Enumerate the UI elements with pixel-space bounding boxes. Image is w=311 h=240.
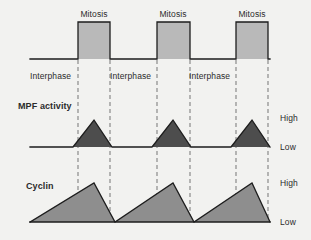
mitosis-label-1: Mitosis bbox=[80, 9, 107, 19]
mpf-peak-2 bbox=[152, 120, 191, 147]
mpf-activity-panel bbox=[30, 120, 270, 147]
mitosis-pulse-3 bbox=[236, 22, 268, 59]
interphase-label-1: Interphase bbox=[30, 71, 71, 81]
mitosis-pulse-2 bbox=[157, 22, 190, 59]
mitosis-label-3: Mitosis bbox=[238, 9, 265, 19]
cyclin-label: Cyclin bbox=[26, 181, 54, 191]
mitosis-pulse-1 bbox=[78, 22, 110, 59]
mpf-peak-1 bbox=[73, 120, 112, 147]
cell-cycle-diagram: Mitosis Mitosis Mitosis Interphase Inter… bbox=[0, 0, 311, 240]
mitosis-panel bbox=[30, 22, 270, 59]
mpf-activity-label: MPF activity bbox=[18, 101, 72, 111]
mitosis-label-2: Mitosis bbox=[159, 9, 186, 19]
interphase-label-2: Interphase bbox=[110, 71, 151, 81]
mpf-high-label: High bbox=[280, 113, 298, 123]
mitosis-waveform bbox=[30, 22, 270, 59]
cyclin-low-label: Low bbox=[280, 217, 296, 227]
cyclin-panel bbox=[30, 183, 270, 222]
mpf-low-label: Low bbox=[280, 142, 296, 152]
interphase-label-3: Interphase bbox=[189, 71, 230, 81]
mpf-activity-curve bbox=[30, 120, 270, 147]
diagram-canvas bbox=[0, 0, 311, 240]
mpf-peak-3 bbox=[231, 120, 270, 147]
cyclin-high-label: High bbox=[280, 178, 298, 188]
cyclin-area bbox=[30, 183, 270, 222]
